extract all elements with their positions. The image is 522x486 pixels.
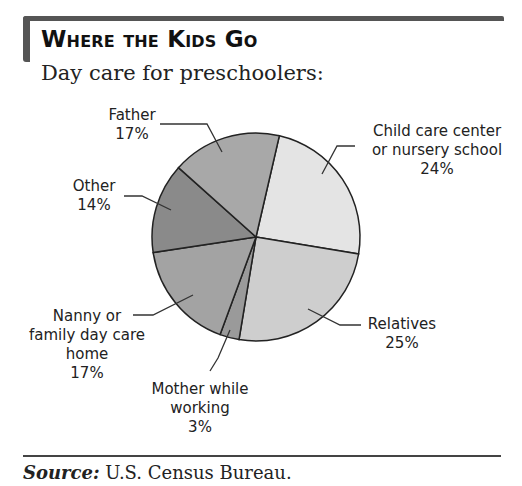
label-other: Other 14% [66, 177, 122, 215]
source-label: Source: [23, 462, 100, 483]
label-mother-line1: Mother while [140, 380, 260, 399]
pie-chart [0, 0, 522, 486]
label-nanny-line2: family day care [24, 326, 150, 345]
label-father-value: 17% [100, 125, 164, 144]
source-note: Source: U.S. Census Bureau. [23, 462, 292, 484]
label-mother-line2: working [140, 399, 260, 418]
label-child-line1: Child care center [362, 122, 512, 141]
footer-rule [23, 455, 501, 457]
label-nanny-value: 17% [24, 364, 150, 383]
label-relatives: Relatives 25% [364, 315, 440, 353]
label-relatives-name: Relatives [364, 315, 440, 334]
label-child: Child care center or nursery school 24% [362, 122, 512, 179]
label-nanny: Nanny or family day care home 17% [24, 307, 150, 383]
label-relatives-value: 25% [364, 334, 440, 353]
label-nanny-line3: home [24, 345, 150, 364]
pie-slices [152, 133, 360, 341]
label-other-value: 14% [66, 196, 122, 215]
label-father-name: Father [100, 106, 164, 125]
label-child-line2: or nursery school [362, 141, 512, 160]
leader-mother [210, 330, 230, 371]
source-text: U.S. Census Bureau. [100, 462, 292, 483]
label-mother: Mother while working 3% [140, 380, 260, 437]
label-other-name: Other [66, 177, 122, 196]
label-nanny-line1: Nanny or [24, 307, 150, 326]
label-father: Father 17% [100, 106, 164, 144]
label-child-value: 24% [362, 160, 512, 179]
label-mother-value: 3% [140, 418, 260, 437]
